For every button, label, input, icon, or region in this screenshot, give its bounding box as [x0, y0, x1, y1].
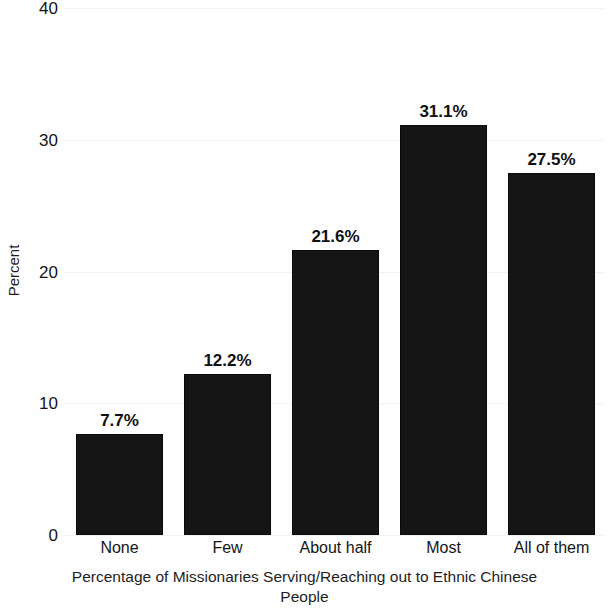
bar-group: 12.2%	[184, 8, 271, 535]
bar-value-label: 21.6%	[278, 228, 393, 246]
bar-value-label: 31.1%	[386, 103, 501, 121]
x-axis-tick-label: Few	[170, 539, 285, 557]
x-axis-title-line-2: People	[18, 587, 591, 607]
bar-group: 27.5%	[508, 8, 595, 535]
x-axis-tick-label: All of them	[494, 539, 609, 557]
bar-value-label: 27.5%	[494, 151, 609, 169]
y-axis-tick-label: 40	[22, 0, 58, 17]
y-axis-tick-label: 10	[22, 395, 58, 412]
bar[interactable]	[184, 374, 271, 535]
y-axis-tick-label: 30	[22, 131, 58, 148]
y-axis-tick-label: 0	[22, 527, 58, 544]
bar-group: 21.6%	[292, 8, 379, 535]
x-axis-tick-label: None	[62, 539, 177, 557]
y-axis-title-label: Percent	[6, 244, 23, 296]
bar[interactable]	[76, 434, 163, 535]
bar[interactable]	[508, 173, 595, 535]
plot-area: 7.7%12.2%21.6%31.1%27.5%	[64, 8, 604, 535]
bar-group: 7.7%	[76, 8, 163, 535]
bar-group: 31.1%	[400, 8, 487, 535]
bar[interactable]	[292, 250, 379, 535]
x-axis-tick-label: About half	[278, 539, 393, 557]
gridline	[64, 535, 604, 536]
y-axis-tick-label: 20	[22, 263, 58, 280]
x-axis-title: Percentage of Missionaries Serving/Reach…	[18, 567, 591, 607]
x-axis-title-line-1: Percentage of Missionaries Serving/Reach…	[18, 567, 591, 587]
bar-value-label: 7.7%	[62, 412, 177, 430]
bar-chart: Percent 010203040 7.7%12.2%21.6%31.1%27.…	[0, 0, 609, 614]
bar[interactable]	[400, 125, 487, 535]
x-axis-tick-label: Most	[386, 539, 501, 557]
bar-value-label: 12.2%	[170, 352, 285, 370]
